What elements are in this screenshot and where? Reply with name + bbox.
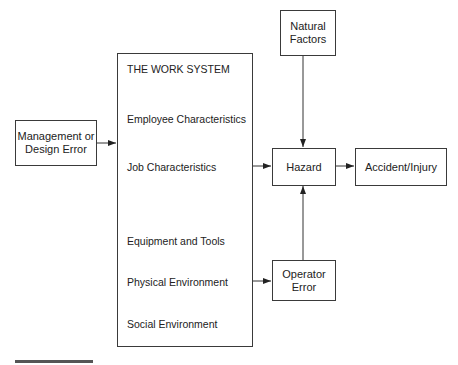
work-system-item-job: Job Characteristics <box>127 161 216 174</box>
operator-error-label: Operator Error <box>282 268 325 294</box>
work-system-item-equipment: Equipment and Tools <box>127 235 225 248</box>
accident-injury-label: Accident/Injury <box>365 161 437 174</box>
diagram-canvas: Management or Design Error THE WORK SYST… <box>0 0 458 365</box>
hazard-box: Hazard <box>272 148 336 186</box>
footer-rule <box>15 360 93 363</box>
work-system-item-social: Social Environment <box>127 318 217 331</box>
management-error-box: Management or Design Error <box>15 120 97 166</box>
management-error-label: Management or Design Error <box>17 130 94 156</box>
work-system-item-employee: Employee Characteristics <box>127 113 246 126</box>
accident-injury-box: Accident/Injury <box>355 148 447 186</box>
work-system-box: THE WORK SYSTEM Employee Characteristics… <box>117 53 253 347</box>
natural-factors-box: Natural Factors <box>280 10 336 56</box>
work-system-title: THE WORK SYSTEM <box>127 63 230 76</box>
natural-factors-label: Natural Factors <box>290 20 327 46</box>
hazard-label: Hazard <box>286 161 321 174</box>
operator-error-box: Operator Error <box>272 260 336 301</box>
work-system-item-physical: Physical Environment <box>127 276 228 289</box>
